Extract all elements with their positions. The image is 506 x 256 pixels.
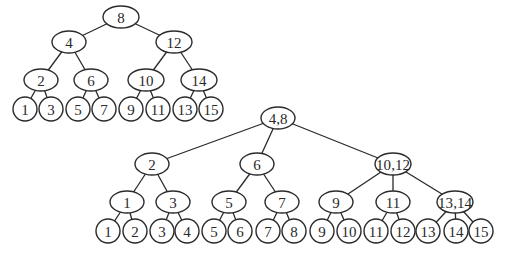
node-label: 4 [65, 35, 73, 51]
node-label: 10,12 [376, 157, 410, 173]
node-label: 12 [396, 224, 411, 240]
tree-node: 12 [391, 219, 415, 243]
nodes-layer: 8412261014135791113154,82610,12135791113… [13, 6, 493, 243]
tree-node: 9 [310, 219, 334, 243]
tree-node: 8 [103, 6, 139, 28]
node-label: 11 [386, 195, 400, 211]
node-label: 15 [204, 102, 219, 118]
node-label: 12 [167, 35, 182, 51]
tree-node: 7 [265, 191, 299, 213]
node-label: 3 [47, 102, 55, 118]
node-label: 6 [87, 73, 95, 89]
node-label: 14 [449, 224, 465, 240]
multiway-tree-nodes: 4,82610,12135791113,14123456789101112131… [96, 107, 493, 243]
binary-tree-edges [25, 17, 211, 109]
tree-node: 14 [444, 219, 468, 243]
tree-node: 10 [128, 69, 164, 91]
tree-node: 7 [92, 97, 116, 121]
tree-node: 15 [469, 219, 493, 243]
tree-node: 15 [199, 97, 223, 121]
node-label: 2 [148, 157, 156, 173]
tree-node: 3 [156, 191, 190, 213]
node-label: 1 [21, 102, 29, 118]
node-label: 1 [123, 195, 131, 211]
tree-node: 1 [110, 191, 144, 213]
node-label: 11 [369, 224, 383, 240]
node-label: 2 [37, 73, 45, 89]
tree-node: 11 [146, 97, 170, 121]
node-label: 6 [236, 224, 244, 240]
node-label: 4,8 [269, 111, 288, 127]
tree-node: 5 [66, 97, 90, 121]
tree-node: 7 [256, 219, 280, 243]
tree-node: 1 [13, 97, 37, 121]
node-label: 5 [74, 102, 82, 118]
node-label: 10 [342, 224, 357, 240]
tree-node: 5 [202, 219, 226, 243]
tree-node: 3 [150, 219, 174, 243]
tree-node: 12 [156, 31, 192, 53]
node-label: 7 [278, 195, 286, 211]
tree-diagram: 8412261014135791113154,82610,12135791113… [0, 0, 506, 256]
binary-tree-nodes: 841226101413579111315 [13, 6, 223, 121]
node-label: 6 [253, 157, 261, 173]
tree-node: 10 [337, 219, 361, 243]
node-label: 7 [100, 102, 108, 118]
node-label: 5 [210, 224, 218, 240]
tree-node: 2 [123, 219, 147, 243]
tree-node: 6 [240, 153, 274, 175]
node-label: 13,14 [438, 195, 473, 211]
tree-node: 11 [376, 191, 410, 213]
tree-node: 9 [119, 97, 143, 121]
multiway-tree-edges [108, 118, 481, 231]
node-label: 11 [151, 102, 165, 118]
node-label: 1 [104, 224, 112, 240]
tree-node: 13,14 [437, 191, 473, 213]
node-label: 4 [183, 224, 191, 240]
tree-node: 4 [52, 31, 86, 53]
node-label: 2 [131, 224, 139, 240]
node-label: 13 [421, 224, 436, 240]
node-label: 14 [192, 73, 208, 89]
tree-node: 3 [39, 97, 63, 121]
node-label: 9 [318, 224, 326, 240]
node-label: 8 [117, 10, 125, 26]
diagram-canvas: 8412261014135791113154,82610,12135791113… [0, 0, 506, 256]
edges-layer [25, 17, 481, 231]
tree-node: 10,12 [375, 153, 411, 175]
tree-node: 5 [212, 191, 246, 213]
tree-node: 4 [175, 219, 199, 243]
tree-node: 9 [319, 191, 353, 213]
tree-node: 2 [135, 153, 169, 175]
node-label: 8 [290, 224, 298, 240]
tree-node: 8 [282, 219, 306, 243]
tree-node: 13 [416, 219, 440, 243]
tree-node: 6 [228, 219, 252, 243]
node-label: 15 [474, 224, 489, 240]
tree-node: 6 [74, 69, 108, 91]
tree-node: 1 [96, 219, 120, 243]
tree-node: 11 [364, 219, 388, 243]
node-label: 13 [178, 102, 193, 118]
node-label: 10 [139, 73, 154, 89]
node-label: 9 [332, 195, 340, 211]
tree-node: 4,8 [261, 107, 295, 129]
node-label: 5 [225, 195, 233, 211]
node-label: 9 [127, 102, 135, 118]
node-label: 3 [169, 195, 177, 211]
tree-node: 14 [181, 69, 217, 91]
tree-node: 2 [24, 69, 58, 91]
node-label: 7 [264, 224, 272, 240]
node-label: 3 [158, 224, 166, 240]
tree-node: 13 [173, 97, 197, 121]
